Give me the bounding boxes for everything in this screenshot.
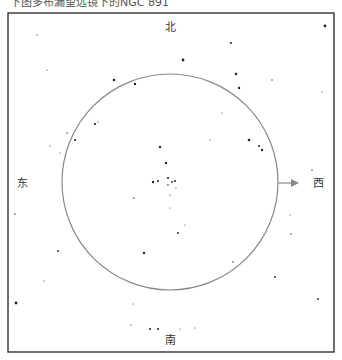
star — [238, 87, 240, 89]
star — [248, 139, 251, 142]
star — [57, 250, 59, 252]
star — [324, 25, 327, 28]
star — [177, 232, 179, 234]
star — [221, 112, 222, 113]
star — [97, 121, 98, 122]
star — [134, 83, 136, 85]
star — [49, 145, 50, 146]
star — [290, 215, 291, 216]
star — [14, 213, 15, 214]
label-east: 东 — [17, 177, 28, 190]
star — [174, 180, 176, 182]
star — [157, 328, 159, 330]
star — [143, 252, 145, 254]
star — [194, 327, 195, 328]
star — [175, 187, 176, 188]
star — [74, 139, 76, 141]
star — [321, 91, 322, 92]
star — [180, 329, 181, 330]
star — [261, 149, 263, 151]
star — [60, 153, 61, 154]
star — [113, 79, 116, 82]
star — [157, 180, 159, 182]
star — [152, 181, 154, 183]
star — [274, 276, 276, 278]
star — [169, 207, 170, 208]
drift-arrow — [278, 179, 299, 187]
star-field-diagram: 北 南 东 西 — [0, 0, 342, 360]
star — [15, 302, 18, 305]
star — [311, 169, 312, 170]
star — [169, 194, 170, 195]
star — [46, 69, 47, 70]
star — [94, 123, 96, 125]
star — [36, 34, 37, 35]
star — [159, 146, 161, 148]
star — [317, 298, 319, 300]
star — [43, 280, 44, 281]
star — [171, 181, 173, 183]
star — [210, 140, 211, 141]
star — [290, 233, 291, 234]
stars — [14, 25, 326, 330]
label-west: 西 — [313, 177, 324, 190]
star — [149, 328, 151, 330]
star — [165, 162, 167, 164]
star — [133, 197, 134, 198]
star — [232, 261, 233, 262]
label-north: 北 — [165, 21, 176, 34]
star — [182, 59, 185, 62]
star — [258, 145, 260, 147]
field-of-view-circle — [62, 74, 278, 290]
star — [132, 303, 133, 304]
star — [230, 42, 232, 44]
star — [185, 225, 186, 226]
star — [235, 73, 237, 75]
star — [167, 177, 169, 179]
star — [167, 184, 169, 186]
star — [66, 132, 67, 133]
label-south: 南 — [165, 334, 176, 347]
star — [271, 79, 272, 80]
star — [130, 324, 131, 325]
